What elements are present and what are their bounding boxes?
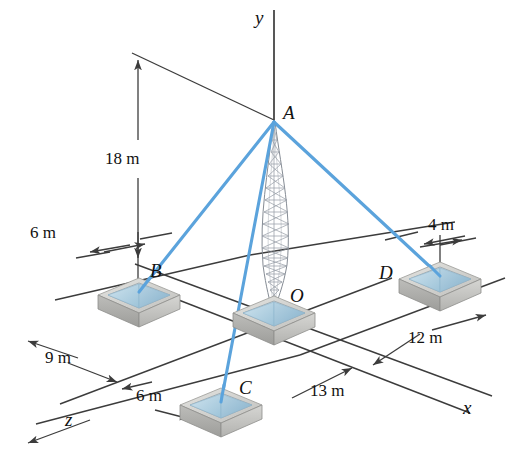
b-dim-extension-left [76, 252, 110, 258]
lattice-mast [262, 122, 289, 312]
dimension-label-6m-c: 6 m [136, 387, 162, 404]
point-label-O: O [290, 286, 304, 305]
point-label-A: A [283, 103, 295, 122]
point-label-C: C [239, 378, 252, 397]
pedestal-D [399, 262, 481, 311]
b-z-offset-dimension-group [28, 341, 117, 382]
cable-AD [274, 122, 440, 276]
point-label-B: B [150, 261, 162, 280]
pedestal-B [98, 278, 180, 327]
x-axis-label: x [463, 398, 471, 417]
cable-AC [221, 122, 274, 402]
dimension-label-12m: 12 m [408, 329, 442, 346]
grid-line-b-to-c [140, 285, 470, 413]
dimension-label-18m: 18 m [105, 150, 139, 167]
z-axis-label: z [65, 410, 72, 429]
point-label-D: D [379, 263, 393, 282]
figure-canvas: y x z A O B C D 18 m 6 m 9 m 6 m 13 m 4 … [0, 0, 508, 470]
nine-m-arrow-lower [68, 363, 117, 382]
dimension-label-13m: 13 m [310, 382, 344, 399]
dimension-label-9m: 9 m [45, 349, 71, 366]
b-dim-extension-right [140, 233, 172, 239]
diagram-svg [0, 0, 508, 470]
dimension-label-4m: 4 m [428, 216, 454, 233]
dimension-label-6m-b: 6 m [30, 224, 56, 241]
height-projector [132, 53, 274, 120]
y-axis-label: y [255, 8, 263, 27]
four-m-extension-right [440, 238, 476, 245]
